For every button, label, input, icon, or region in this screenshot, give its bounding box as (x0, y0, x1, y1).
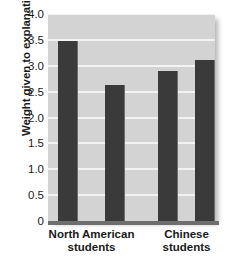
bar (195, 60, 215, 221)
x-axis-group-label-line: North American (37, 228, 147, 241)
y-axis-tick-label: 2.0 (12, 113, 44, 123)
x-axis-group-label-line: Chinese (132, 228, 242, 241)
gridline (48, 14, 215, 15)
y-axis-tick-label: 0 (12, 216, 44, 226)
y-axis-tick-label: 3.0 (12, 61, 44, 71)
y-axis-tick-label: 3.5 (12, 35, 44, 45)
y-axis-tick-labels: 4.03.53.02.52.01.51.00.50 (12, 14, 44, 221)
plot-area (48, 14, 215, 221)
x-axis-group-label: North Americanstudents (37, 228, 147, 254)
plot-area-wrapper (48, 14, 215, 221)
y-axis-tick-label: 4.0 (12, 9, 44, 19)
bar (105, 85, 125, 221)
x-axis-group-label-line: students (132, 241, 242, 254)
bar (158, 71, 178, 221)
y-axis-tick-label: 2.5 (12, 87, 44, 97)
x-axis-group-labels: North AmericanstudentsChinesestudents (40, 228, 246, 268)
y-axis-tick-label: 0.5 (12, 190, 44, 200)
x-axis-line (48, 221, 219, 225)
x-axis-group-label: Chinesestudents (132, 228, 242, 254)
bar (58, 41, 78, 221)
x-axis-group-label-line: students (37, 241, 147, 254)
bar-chart-figure: Weight given to explanations 4.03.53.02.… (0, 0, 246, 270)
y-axis-tick-label: 1.5 (12, 138, 44, 148)
y-axis-tick-label: 1.0 (12, 164, 44, 174)
